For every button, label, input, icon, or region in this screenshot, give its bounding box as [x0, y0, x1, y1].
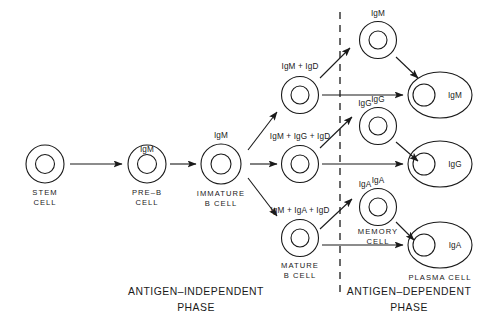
stem-cell-label-line2: CELL: [33, 198, 56, 207]
arrow-memory-iga-to-plasma-iga: [396, 222, 414, 240]
plasma-cell-igg-ig-label: IgG: [448, 160, 462, 169]
cell-plasma-cell-igg: IgG: [408, 141, 472, 187]
plasma-cell-iga-ig-label: IgA: [449, 241, 462, 250]
diagram-canvas: STEM CELL IgM PRE–B CELL IgM IMMATURE B …: [0, 0, 494, 324]
phase-label-antigen-independent: ANTIGEN–INDEPENDENT PHASE: [128, 286, 264, 313]
antigen-independent-line1: ANTIGEN–INDEPENDENT: [128, 286, 264, 297]
antigen-dependent-line1: ANTIGEN–DEPENDENT: [347, 286, 472, 297]
pre-b-cell-label-line2: CELL: [135, 198, 158, 207]
cell-mature-b-cell: IgM + IgA + IgD MATURE B CELL: [270, 206, 329, 280]
antigen-independent-line2: PHASE: [177, 302, 215, 313]
memory-cell-igg-ig-label: IgG: [371, 95, 385, 104]
arrow-memory-igm-to-plasma-igm: [396, 57, 418, 78]
cell-stem-cell: STEM CELL: [26, 145, 64, 207]
igm-igd-cell-ig-label: IgM + IgD: [281, 62, 318, 71]
cell-immature-b-cell: IgM IMMATURE B CELL: [197, 131, 245, 208]
igm-igg-igd-cell-ig-label: IgM + IgG + IgD: [270, 132, 331, 141]
memory-cell-iga-ig-label: IgA: [372, 176, 385, 185]
mature-b-cell-label-line1: MATURE: [281, 261, 319, 270]
arrow-immature-to-igmigd: [248, 112, 277, 150]
memory-cell-igm-ig-label: IgM: [371, 9, 385, 18]
cell-memory-cell-igm: IgM: [360, 9, 397, 59]
memory-cell-label-line2: CELL: [366, 237, 389, 246]
immature-b-cell-label-line1: IMMATURE: [197, 189, 245, 198]
arrow-igmigd-to-memory-igm: [320, 48, 350, 78]
cell-igm-igd: IgM + IgD: [281, 62, 318, 114]
immature-b-cell-ig-label: IgM: [214, 131, 228, 140]
cell-plasma-cell-igm: IgM: [408, 72, 472, 118]
cell-igm-igg-igd: IgM + IgG + IgD: [270, 132, 331, 183]
plasma-cell-label: PLASMA CELL: [408, 273, 471, 282]
immature-b-cell-label-line2: B CELL: [205, 199, 237, 208]
antigen-dependent-line2: PHASE: [390, 302, 428, 313]
mature-b-cell-ig-label: IgM + IgA + IgD: [270, 206, 329, 215]
pre-b-cell-ig-label: IgM: [140, 145, 154, 154]
iga-arrow-label: IgA: [359, 180, 372, 189]
stem-cell-label-line1: STEM: [32, 188, 57, 197]
pre-b-cell-label-line1: PRE–B: [132, 188, 162, 197]
memory-cell-label-line1: MEMORY: [358, 227, 398, 236]
b-cell-differentiation-diagram: STEM CELL IgM PRE–B CELL IgM IMMATURE B …: [0, 0, 494, 324]
arrow-group: [70, 48, 418, 245]
cell-plasma-cell-iga: IgA PLASMA CELL: [408, 222, 472, 282]
phase-label-antigen-dependent: ANTIGEN–DEPENDENT PHASE: [347, 286, 472, 313]
igg-arrow-label: IgG: [358, 99, 372, 108]
plasma-cell-igm-ig-label: IgM: [448, 91, 462, 100]
cell-pre-b-cell: IgM PRE–B CELL: [128, 145, 166, 207]
mature-b-cell-label-line2: B CELL: [284, 271, 316, 280]
